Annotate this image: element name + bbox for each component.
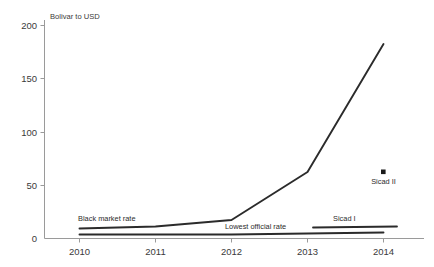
- series-label-black-market-rate: Black market rate: [78, 214, 136, 223]
- series-line-lowest-official-rate: [80, 233, 384, 235]
- x-tick-label-2012: 2012: [221, 246, 242, 257]
- x-tick-label-2014: 2014: [373, 246, 394, 257]
- y-tick-label-200: 200: [21, 20, 37, 31]
- series-line-sicad-i: [313, 227, 397, 228]
- x-tick-label-2010: 2010: [69, 246, 90, 257]
- series-marker-sicad-ii: [381, 170, 386, 175]
- y-tick-label-100: 100: [21, 127, 37, 138]
- cropped-title-sliver: [118, 0, 328, 3]
- line-chart: 200 150 100 50 0 Bolivar to USD 2010 201…: [0, 0, 434, 267]
- y-axis-title: Bolivar to USD: [50, 12, 100, 21]
- series-line-black-market-rate: [80, 44, 384, 229]
- x-tick-label-2011: 2011: [145, 246, 165, 257]
- series-label-sicad-i: Sicad I: [333, 214, 356, 223]
- y-tick-label-0: 0: [32, 233, 37, 244]
- y-tick-label-50: 50: [26, 180, 37, 191]
- y-tick-label-150: 150: [21, 73, 37, 84]
- series-label-lowest-official-rate: Lowest official rate: [225, 222, 286, 231]
- chart-container: 200 150 100 50 0 Bolivar to USD 2010 201…: [0, 0, 434, 267]
- x-tick-label-2013: 2013: [297, 246, 318, 257]
- series-label-sicad-ii: Sicad II: [371, 177, 396, 186]
